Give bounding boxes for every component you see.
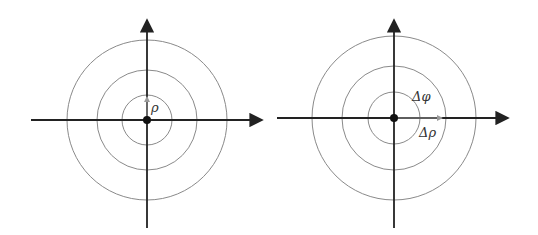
polar-diagrams: ρ Δφ Δρ — [0, 0, 538, 235]
left-diagram: ρ — [31, 20, 262, 228]
origin-dot — [390, 114, 398, 122]
delta-rho-label: Δρ — [418, 125, 436, 140]
right-diagram: Δφ Δρ — [277, 20, 508, 228]
origin-dot — [143, 116, 151, 124]
rho-label: ρ — [150, 100, 159, 115]
delta-phi-label: Δφ — [411, 89, 431, 104]
